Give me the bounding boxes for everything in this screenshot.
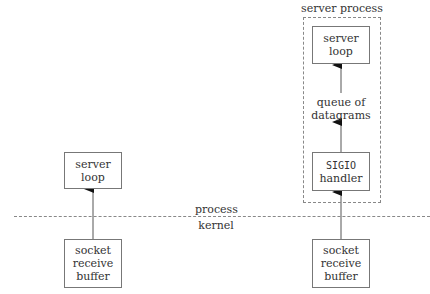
process-label: process <box>195 203 237 216</box>
right-socket-buffer-box: socket receive buffer <box>312 239 370 288</box>
sigio-handler-box: SIGIO handler <box>312 152 370 191</box>
left-socket-line3: buffer <box>76 270 110 283</box>
right-socket-line1: socket <box>323 244 359 257</box>
queue-of-datagrams-label: queue of datagrams <box>307 96 375 122</box>
right-socket-line2: receive <box>321 257 362 270</box>
server-process-label: server process <box>290 2 394 15</box>
right-server-loop-line1: server <box>323 32 358 45</box>
left-server-loop-line1: server <box>75 158 110 171</box>
left-socket-buffer-box: socket receive buffer <box>64 239 122 288</box>
left-socket-line2: receive <box>73 257 114 270</box>
queue-line2: datagrams <box>307 109 375 122</box>
left-socket-line1: socket <box>75 244 111 257</box>
right-server-loop-line2: loop <box>329 45 353 58</box>
right-socket-line3: buffer <box>324 270 358 283</box>
handler-label: handler <box>319 172 362 185</box>
queue-line1: queue of <box>307 96 375 109</box>
right-server-loop-box: server loop <box>312 26 370 64</box>
kernel-label: kernel <box>195 219 237 232</box>
sigio-label: SIGIO <box>326 159 356 172</box>
left-server-loop-box: server loop <box>64 152 122 189</box>
left-server-loop-line2: loop <box>81 171 105 184</box>
process-kernel-separator <box>14 216 430 217</box>
